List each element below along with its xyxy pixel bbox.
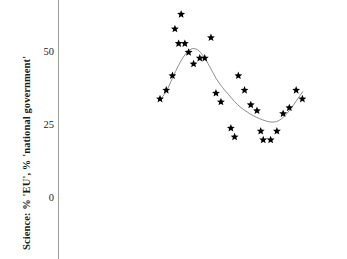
data-point-star — [181, 39, 189, 47]
data-point-star — [217, 98, 225, 106]
data-point-star — [279, 109, 287, 117]
data-point-star — [292, 86, 300, 94]
data-point-star — [253, 107, 261, 115]
data-point-star — [201, 54, 209, 62]
plot-area — [0, 0, 347, 259]
data-point-group — [156, 10, 306, 143]
data-point-star — [212, 89, 220, 97]
data-point-star — [267, 136, 275, 144]
data-point-star — [241, 86, 249, 94]
trend-line — [160, 49, 303, 123]
data-point-star — [257, 127, 265, 135]
chart-figure: Science: % 'EU', % 'national government'… — [0, 0, 347, 259]
data-point-star — [175, 39, 183, 47]
data-point-star — [162, 86, 170, 94]
data-point-star — [177, 10, 185, 18]
data-point-star — [171, 25, 179, 33]
data-point-star — [234, 72, 242, 80]
data-point-star — [227, 124, 235, 132]
data-point-star — [231, 133, 239, 141]
data-point-star — [247, 101, 255, 109]
data-point-star — [273, 127, 281, 135]
data-point-star — [259, 136, 267, 144]
data-point-star — [207, 34, 215, 42]
data-point-star — [190, 60, 198, 68]
